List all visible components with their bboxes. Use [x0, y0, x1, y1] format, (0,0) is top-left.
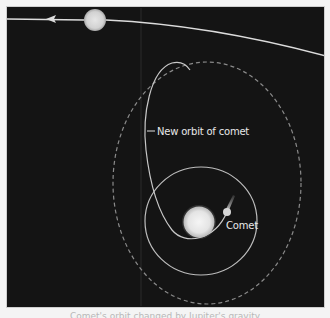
figure-caption: Comet's orbit changed by Jupiter's gravi…	[0, 309, 330, 318]
planet-icon	[84, 9, 106, 31]
comet-label: Comet	[226, 220, 258, 231]
comet-icon	[223, 208, 231, 216]
new-orbit-label: New orbit of comet	[157, 126, 249, 137]
comet-orbit-figure: New orbit of comet Comet Comet's orbit c…	[0, 0, 330, 318]
sun-icon	[184, 207, 215, 238]
comet-tail	[226, 195, 235, 210]
planet-orbit-line	[6, 19, 326, 56]
orbit-diagram-svg: New orbit of comet Comet	[0, 0, 330, 318]
